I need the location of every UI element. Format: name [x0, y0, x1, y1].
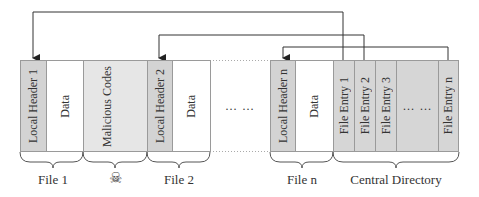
gap-ellipsis-label: … …: [225, 99, 255, 114]
pointer-arrow-1: [33, 12, 343, 60]
file-entry-ellipsis: … …: [396, 60, 439, 152]
data-n-label: Data: [308, 95, 321, 118]
file-1-caption: File 1: [38, 172, 68, 188]
file-entry-n-label: File Entry n: [442, 77, 455, 134]
gap-ellipsis: … …: [210, 60, 270, 152]
file-entry-1: File Entry 1: [333, 60, 355, 152]
file-entry-n: File Entry n: [438, 60, 459, 152]
file-2-caption: File 2: [164, 172, 194, 188]
file-n-caption: File n: [287, 172, 317, 188]
central-directory-caption: Central Directory: [350, 172, 441, 188]
skull-icon: ☠: [109, 169, 122, 187]
brace-central-directory: [333, 152, 459, 168]
file-entry-3: File Entry 3: [375, 60, 397, 152]
braces: [20, 152, 459, 168]
local-header-n: Local Header n: [270, 60, 296, 152]
file-entry-3-label: File Entry 3: [380, 77, 393, 134]
malicious-codes-block: Malicious Codes: [83, 60, 148, 152]
data-2-label: Data: [185, 95, 198, 118]
local-header-2: Local Header 2: [147, 60, 173, 152]
brace-file-n: [270, 152, 333, 168]
file-entry-1-label: File Entry 1: [338, 77, 351, 134]
malicious-codes-label: Malicious Codes: [101, 66, 131, 147]
file-entry-2: File Entry 2: [354, 60, 376, 152]
pointer-arrow-n: [283, 47, 448, 60]
brace-file-1: [20, 152, 83, 168]
data-block-2: Data: [172, 60, 211, 152]
local-header-1-label: Local Header 1: [27, 69, 40, 143]
brace-file-2: [147, 152, 210, 168]
local-header-n-label: Local Header n: [277, 69, 290, 143]
data-1-label: Data: [59, 95, 72, 118]
local-header-1: Local Header 1: [20, 60, 47, 152]
entry-ellipsis-label: … …: [403, 99, 433, 114]
file-entry-2-label: File Entry 2: [359, 77, 372, 134]
brace-malicious: [83, 152, 147, 168]
local-header-2-label: Local Header 2: [154, 69, 167, 143]
data-block-n: Data: [295, 60, 334, 152]
data-block-1: Data: [46, 60, 84, 152]
